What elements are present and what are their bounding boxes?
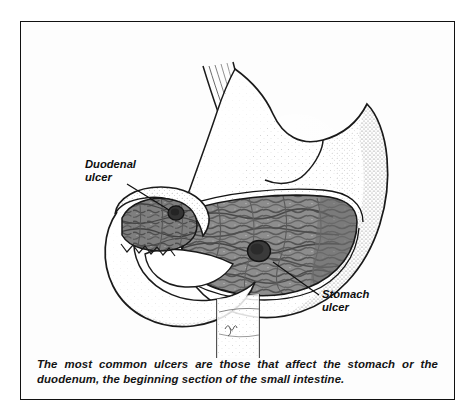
label-duodenal-ulcer: Duodenal ulcer	[85, 158, 136, 183]
figure-page: Duodenal ulcer Stomach ulcer The most co…	[0, 0, 474, 419]
stomach-ulcer-lesion	[248, 241, 271, 262]
illustration-frame: Duodenal ulcer Stomach ulcer The most co…	[20, 21, 455, 400]
label-stomach-ulcer: Stomach ulcer	[322, 288, 369, 313]
anatomical-illustration: Duodenal ulcer Stomach ulcer	[21, 22, 456, 401]
descending-duodenum	[217, 294, 259, 358]
figure-caption: The most common ulcers are those that af…	[37, 357, 438, 387]
duodenal-ulcer-lesion	[168, 206, 184, 220]
stomach-duodenum-diagram	[21, 22, 456, 401]
